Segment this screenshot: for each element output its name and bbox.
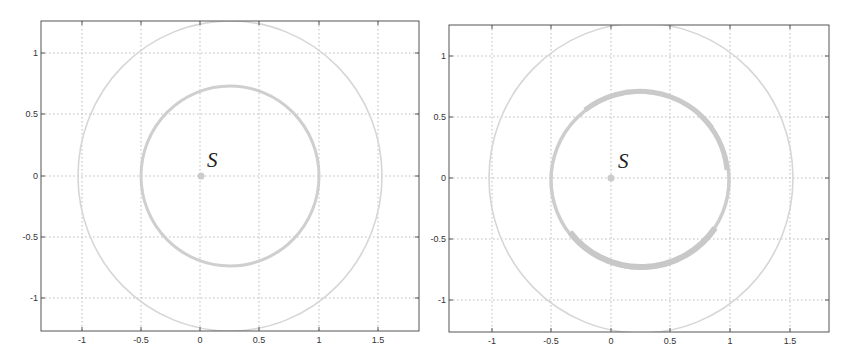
right-inner-band-thick-top	[585, 91, 712, 128]
left-xtick-label: 1.5	[372, 335, 385, 345]
right-ytick-label: -0.5	[430, 234, 446, 244]
left-xtick-label: 0.5	[253, 335, 266, 345]
right-y-tick-labels: 1 0.5 0 -0.5 -1	[430, 51, 446, 305]
right-xtick-label: 1.5	[784, 336, 797, 346]
left-ytick-label: 0	[33, 171, 38, 181]
right-grid	[449, 25, 829, 332]
left-xtick-label: 0	[197, 335, 202, 345]
left-y-tick-labels: 1 0.5 0 -0.5 -1	[22, 48, 38, 303]
left-ytick-label: 0.5	[25, 109, 38, 119]
right-ytick-label: 0	[441, 173, 446, 183]
left-ytick-label: 1	[33, 48, 38, 58]
left-x-tick-labels: -1 -0.5 0 0.5 1 1.5	[78, 335, 384, 345]
figure: S -1 -0.5 0 0.5 1 1.5 1	[0, 0, 845, 357]
left-grid	[41, 21, 419, 331]
right-source-point	[608, 175, 615, 182]
left-ytick-label: -1	[30, 293, 38, 303]
right-xtick-label: 0.5	[664, 336, 677, 346]
right-inner-band-thick-bottom	[570, 228, 715, 267]
left-ytick-label: -0.5	[22, 232, 38, 242]
right-xtick-label: -1	[488, 336, 496, 346]
right-xtick-label: -0.5	[543, 336, 559, 346]
left-source-label: S	[207, 148, 218, 172]
right-ytick-label: -1	[438, 295, 446, 305]
left-xtick-label: -1	[78, 335, 86, 345]
right-ytick-label: 1	[441, 51, 446, 61]
right-xtick-label: 0	[608, 336, 613, 346]
right-inner-band-thick-right	[700, 115, 727, 170]
left-xtick-label: -0.5	[133, 335, 149, 345]
right-plot: S -1 -0.5 0 0.5 1 1.5 1 0.5 0	[430, 23, 829, 346]
left-xtick-label: 1	[316, 335, 321, 345]
right-xtick-label: 1	[727, 336, 732, 346]
left-plot: S -1 -0.5 0 0.5 1 1.5 1	[22, 21, 419, 345]
right-ytick-label: 0.5	[433, 112, 446, 122]
left-source-point	[198, 173, 205, 180]
right-source-label: S	[618, 149, 629, 173]
right-x-tick-labels: -1 -0.5 0 0.5 1 1.5	[488, 336, 796, 346]
